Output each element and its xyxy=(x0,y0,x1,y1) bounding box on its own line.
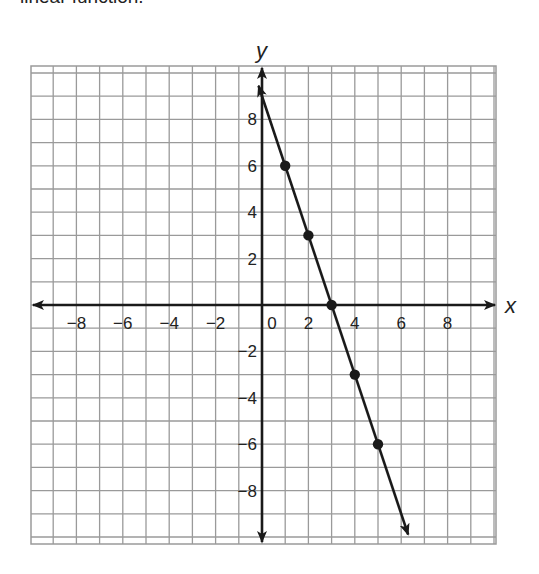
x-axis-label: x xyxy=(504,293,517,318)
coordinate-plane: −8−6−4−2024688642−2−4−6−8 x y xyxy=(0,0,539,574)
y-tick-label: 2 xyxy=(248,250,257,269)
y-tick-label: −2 xyxy=(238,342,257,361)
x-tick-label: 6 xyxy=(396,314,405,333)
y-tick-label: 4 xyxy=(248,203,257,222)
axes xyxy=(33,68,495,542)
y-axis-label: y xyxy=(254,38,269,63)
y-tick-label: −8 xyxy=(238,482,257,501)
data-point xyxy=(303,230,313,240)
y-tick-label: −4 xyxy=(238,389,257,408)
y-tick-label: −6 xyxy=(238,435,257,454)
data-point xyxy=(373,439,383,449)
x-tick-label: −6 xyxy=(113,314,132,333)
x-tick-label: −8 xyxy=(67,314,86,333)
data-point xyxy=(326,300,336,310)
x-tick-label: 8 xyxy=(443,314,452,333)
data-point xyxy=(280,161,290,171)
x-tick-label: 2 xyxy=(304,314,313,333)
y-tick-label: 8 xyxy=(248,110,257,129)
x-tick-label: 4 xyxy=(350,314,359,333)
data-point xyxy=(350,369,360,379)
x-tick-label: −2 xyxy=(206,314,225,333)
y-tick-label: 6 xyxy=(248,157,257,176)
x-tick-label: 0 xyxy=(267,314,276,333)
x-tick-label: −4 xyxy=(160,314,179,333)
